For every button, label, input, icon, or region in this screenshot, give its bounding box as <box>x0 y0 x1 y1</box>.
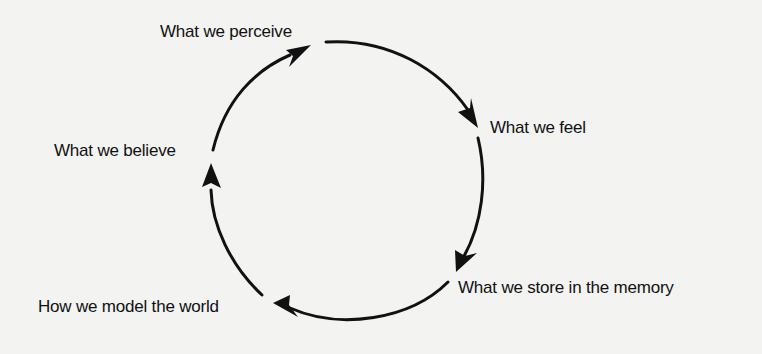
arrow-model-to-believe <box>211 190 262 295</box>
node-perceive: What we perceive <box>160 22 292 42</box>
arrowhead-icon <box>273 295 298 317</box>
node-believe: What we believe <box>54 141 176 161</box>
arrow-perceive-to-feel <box>326 42 468 110</box>
arrow-store-to-model <box>290 282 448 320</box>
node-model: How we model the world <box>38 297 219 317</box>
arrowhead-icon <box>202 163 221 188</box>
node-store: What we store in the memory <box>458 278 674 298</box>
arrow-feel-to-store <box>463 138 483 258</box>
arrow-believe-to-perceive <box>213 55 290 150</box>
node-feel: What we feel <box>490 118 586 138</box>
